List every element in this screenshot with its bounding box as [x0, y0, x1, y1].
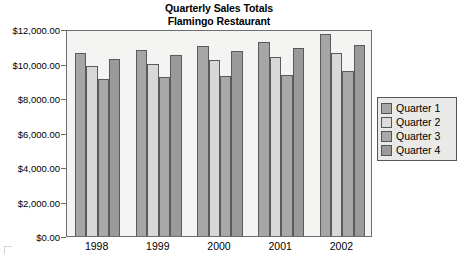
x-axis-tick-label: 2001 [269, 240, 292, 252]
bar-2001-q4 [293, 48, 304, 236]
y-axis-tick-mark [61, 65, 66, 66]
scan-artifact [4, 246, 12, 254]
bar-1999-q1 [136, 50, 147, 236]
legend-item-label: Quarter 3 [396, 130, 440, 142]
bar-1998-q2 [86, 66, 97, 236]
bar-2001-q3 [281, 75, 292, 236]
legend-item-quarter-3[interactable]: Quarter 3 [381, 129, 453, 143]
bar-1998-q1 [75, 53, 86, 236]
chart-legend: Quarter 1Quarter 2Quarter 3Quarter 4 [377, 97, 457, 161]
bar-2000-q2 [209, 60, 220, 236]
y-axis-tick-mark [61, 203, 66, 204]
plot-area [66, 30, 372, 237]
y-axis-tick-mark [61, 99, 66, 100]
chart-title-line-2: Flamingo Restaurant [66, 15, 372, 28]
legend-swatch-icon [381, 103, 392, 114]
bar-2000-q1 [197, 46, 208, 236]
chart-title-line-1: Quarterly Sales Totals [66, 2, 372, 15]
quarterly-sales-chart: Quarterly Sales Totals Flamingo Restaura… [0, 0, 461, 257]
bar-1998-q4 [109, 59, 120, 236]
legend-item-quarter-2[interactable]: Quarter 2 [381, 115, 453, 129]
y-axis-tick-mark [61, 237, 66, 238]
bar-1999-q4 [170, 55, 181, 236]
y-axis-tick-label: $6,000.00 [0, 128, 60, 139]
legend-item-quarter-1[interactable]: Quarter 1 [381, 101, 453, 115]
x-axis-tick-label: 1999 [146, 240, 169, 252]
bar-2002-q3 [342, 71, 353, 236]
x-axis-tick-label: 2000 [207, 240, 230, 252]
legend-swatch-icon [381, 117, 392, 128]
bar-2002-q1 [320, 34, 331, 236]
legend-swatch-icon [381, 145, 392, 156]
bar-2002-q4 [354, 45, 365, 236]
bar-2000-q3 [220, 76, 231, 236]
legend-item-label: Quarter 4 [396, 144, 440, 156]
bar-2001-q1 [258, 42, 269, 236]
bar-1999-q2 [147, 64, 158, 237]
chart-title: Quarterly Sales Totals Flamingo Restaura… [66, 2, 372, 27]
y-axis-tick-mark [61, 134, 66, 135]
y-axis-tick-label: $4,000.00 [0, 163, 60, 174]
x-axis-tick-label: 2002 [330, 240, 353, 252]
bar-1998-q3 [98, 79, 109, 236]
y-axis-tick-label: $10,000.00 [0, 59, 60, 70]
y-axis-tick-label: $0.00 [0, 232, 60, 243]
y-axis-tick-label: $8,000.00 [0, 94, 60, 105]
legend-swatch-icon [381, 131, 392, 142]
y-axis-tick-mark [61, 168, 66, 169]
bar-2000-q4 [231, 51, 242, 236]
y-axis: $0.00$2,000.00$4,000.00$6,000.00$8,000.0… [0, 0, 60, 257]
y-axis-tick-mark [61, 30, 66, 31]
bar-2001-q2 [270, 57, 281, 236]
legend-item-label: Quarter 1 [396, 102, 440, 114]
bar-2002-q2 [331, 53, 342, 236]
x-axis-tick-label: 1998 [85, 240, 108, 252]
legend-item-label: Quarter 2 [396, 116, 440, 128]
bar-1999-q3 [159, 77, 170, 236]
y-axis-tick-label: $12,000.00 [0, 25, 60, 36]
y-axis-tick-label: $2,000.00 [0, 197, 60, 208]
legend-item-quarter-4[interactable]: Quarter 4 [381, 143, 453, 157]
